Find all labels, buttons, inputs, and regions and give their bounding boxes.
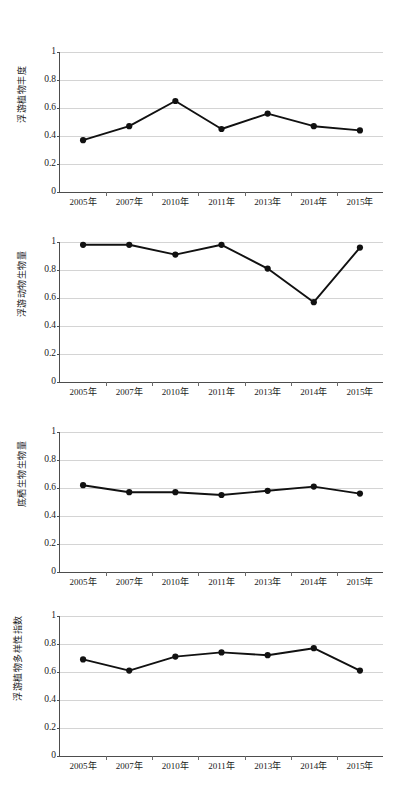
y-tick-label: 0.4 bbox=[44, 695, 56, 705]
x-tick-label: 2013年 bbox=[254, 578, 281, 587]
y-tick-label: 1 bbox=[51, 427, 56, 437]
y-tick-label: 0.8 bbox=[44, 455, 56, 465]
y-tick-label: 0 bbox=[51, 187, 56, 197]
data-point bbox=[265, 111, 271, 117]
x-tick-mark bbox=[337, 382, 338, 386]
x-tick-label: 2005年 bbox=[70, 762, 97, 771]
x-tick-mark bbox=[152, 572, 153, 576]
y-tick-label: 0.4 bbox=[44, 321, 56, 331]
x-tick-label: 2014年 bbox=[300, 388, 327, 397]
data-point bbox=[311, 299, 317, 305]
x-tick-label: 2011年 bbox=[208, 762, 235, 771]
x-tick-label: 2010年 bbox=[162, 388, 189, 397]
data-point bbox=[172, 489, 178, 495]
x-tick-label: 2014年 bbox=[300, 198, 327, 207]
x-tick-mark bbox=[198, 382, 199, 386]
x-tick-mark bbox=[291, 572, 292, 576]
data-point bbox=[80, 656, 86, 662]
x-tick-mark bbox=[337, 756, 338, 760]
y-tick-label: 0.2 bbox=[44, 723, 56, 733]
x-tick-mark bbox=[245, 572, 246, 576]
data-point bbox=[218, 492, 224, 498]
x-tick-label: 2005年 bbox=[70, 388, 97, 397]
series-layer bbox=[60, 242, 383, 382]
y-tick-label: 0.4 bbox=[44, 511, 56, 521]
plot-area-3: 00.20.40.60.812005年2007年2010年2011年2013年2… bbox=[59, 432, 383, 573]
series-line bbox=[83, 245, 360, 302]
x-tick-mark bbox=[337, 192, 338, 196]
x-tick-mark bbox=[106, 192, 107, 196]
chart-panel-4-inner: 浮游植物多样性指数 00.20.40.60.812005年2007年2010年2… bbox=[0, 608, 399, 784]
data-point bbox=[80, 242, 86, 248]
y-tick-mark bbox=[57, 382, 61, 383]
data-point bbox=[126, 242, 132, 248]
y-axis-title: 浮游植物多样性指数 bbox=[14, 583, 23, 733]
x-tick-mark bbox=[198, 572, 199, 576]
x-tick-label: 2015年 bbox=[346, 762, 373, 771]
data-point bbox=[126, 123, 132, 129]
chart-panel-1: 浮游植物丰度 00.20.40.60.812005年2007年2010年2011… bbox=[0, 44, 399, 220]
x-tick-label: 2005年 bbox=[70, 198, 97, 207]
x-tick-label: 2015年 bbox=[346, 198, 373, 207]
x-tick-label: 2007年 bbox=[116, 388, 143, 397]
y-tick-label: 0.6 bbox=[44, 103, 56, 113]
x-tick-mark bbox=[106, 756, 107, 760]
chart-panel-3-inner: 底栖生物生物量 00.20.40.60.812005年2007年2010年201… bbox=[0, 424, 399, 600]
x-tick-label: 2013年 bbox=[254, 388, 281, 397]
data-point bbox=[80, 137, 86, 143]
y-tick-label: 1 bbox=[51, 611, 56, 621]
series-layer bbox=[60, 616, 383, 756]
y-tick-label: 0.2 bbox=[44, 539, 56, 549]
chart-panel-2: 浮游动物生物量 00.20.40.60.812005年2007年2010年201… bbox=[0, 234, 399, 410]
y-tick-label: 0.8 bbox=[44, 639, 56, 649]
y-tick-label: 0.6 bbox=[44, 667, 56, 677]
y-tick-label: 1 bbox=[51, 237, 56, 247]
x-tick-label: 2011年 bbox=[208, 578, 235, 587]
data-point bbox=[172, 98, 178, 104]
x-tick-mark bbox=[337, 572, 338, 576]
chart-panel-3: 底栖生物生物量 00.20.40.60.812005年2007年2010年201… bbox=[0, 424, 399, 600]
x-tick-label: 2015年 bbox=[346, 388, 373, 397]
y-tick-label: 0.2 bbox=[44, 349, 56, 359]
data-point bbox=[311, 645, 317, 651]
x-tick-mark bbox=[198, 756, 199, 760]
x-tick-mark bbox=[106, 382, 107, 386]
x-tick-mark bbox=[152, 192, 153, 196]
x-tick-label: 2005年 bbox=[70, 578, 97, 587]
data-point bbox=[357, 491, 363, 497]
x-tick-label: 2011年 bbox=[208, 388, 235, 397]
x-tick-label: 2007年 bbox=[116, 578, 143, 587]
x-tick-mark bbox=[291, 756, 292, 760]
x-tick-mark bbox=[198, 192, 199, 196]
y-tick-label: 1 bbox=[51, 47, 56, 57]
data-point bbox=[265, 652, 271, 658]
x-tick-mark bbox=[245, 192, 246, 196]
chart-panel-1-inner: 浮游植物丰度 00.20.40.60.812005年2007年2010年2011… bbox=[0, 44, 399, 220]
series-line bbox=[83, 101, 360, 140]
series-layer bbox=[60, 432, 383, 572]
x-tick-label: 2010年 bbox=[162, 198, 189, 207]
data-point bbox=[357, 668, 363, 674]
data-point bbox=[357, 127, 363, 133]
y-tick-label: 0 bbox=[51, 377, 56, 387]
y-tick-label: 0.6 bbox=[44, 293, 56, 303]
y-tick-label: 0 bbox=[51, 751, 56, 761]
x-tick-label: 2011年 bbox=[208, 198, 235, 207]
y-tick-mark bbox=[57, 572, 61, 573]
x-tick-mark bbox=[245, 756, 246, 760]
x-tick-label: 2007年 bbox=[116, 762, 143, 771]
x-tick-label: 2007年 bbox=[116, 198, 143, 207]
data-point bbox=[126, 489, 132, 495]
data-point bbox=[172, 252, 178, 258]
x-tick-mark bbox=[152, 382, 153, 386]
data-point bbox=[172, 654, 178, 660]
data-point bbox=[311, 123, 317, 129]
data-point bbox=[218, 649, 224, 655]
data-point bbox=[126, 668, 132, 674]
x-tick-label: 2010年 bbox=[162, 578, 189, 587]
x-tick-label: 2014年 bbox=[300, 578, 327, 587]
chart-panel-2-inner: 浮游动物生物量 00.20.40.60.812005年2007年2010年201… bbox=[0, 234, 399, 410]
x-tick-mark bbox=[152, 756, 153, 760]
x-tick-label: 2010年 bbox=[162, 762, 189, 771]
plot-area-1: 00.20.40.60.812005年2007年2010年2011年2013年2… bbox=[59, 52, 383, 193]
